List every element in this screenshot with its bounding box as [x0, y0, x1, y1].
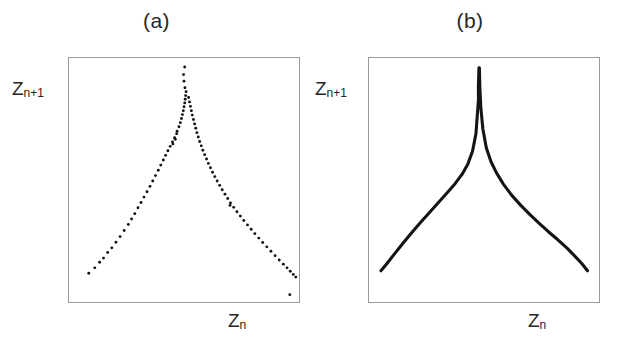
data-point [102, 257, 105, 260]
data-point [224, 193, 227, 196]
panel-a-y-axis-label-sub: n+1 [24, 86, 44, 100]
panel-b-x-axis-label-sub: n [540, 318, 547, 332]
data-point [164, 154, 167, 157]
data-point [182, 73, 185, 76]
data-point [182, 109, 185, 112]
data-point [194, 127, 197, 130]
data-point [197, 136, 200, 139]
data-point [98, 261, 101, 264]
data-point [261, 241, 264, 244]
data-point [192, 118, 195, 121]
data-point [110, 246, 113, 249]
data-point [151, 180, 154, 183]
data-point [146, 190, 149, 193]
panel-a-x-axis-label: Zn [228, 310, 246, 332]
data-point [221, 188, 224, 191]
data-point [185, 90, 188, 93]
data-point [253, 232, 256, 235]
data-point [183, 101, 186, 104]
data-point [93, 266, 96, 269]
panel-b-y-axis-label: Zn+1 [315, 78, 347, 100]
panel-a-y-axis-label: Zn+1 [12, 78, 44, 100]
data-point [137, 206, 140, 209]
data-point [123, 229, 126, 232]
panel-b-y-axis-label-sub: n+1 [327, 86, 347, 100]
data-point [218, 184, 221, 187]
data-point [286, 266, 289, 269]
panel-b-x-axis-label-base: Z [528, 310, 540, 331]
data-point [246, 223, 249, 226]
data-point [274, 254, 277, 257]
data-point [180, 117, 183, 120]
data-point [140, 201, 143, 204]
data-point [188, 100, 191, 103]
data-point [232, 206, 235, 209]
data-point [265, 245, 268, 248]
data-point [213, 175, 216, 178]
data-point [172, 142, 175, 145]
data-point [169, 145, 172, 148]
data-point [183, 86, 186, 89]
data-point [193, 122, 196, 125]
data-point [209, 166, 212, 169]
data-point [166, 149, 169, 152]
data-point [289, 270, 292, 273]
panel-b-y-axis-label-base: Z [315, 78, 327, 99]
cusp-curve-path [381, 68, 588, 271]
panel-a-title: (a) [0, 9, 313, 33]
data-point [175, 132, 178, 135]
data-point [181, 113, 184, 116]
data-point [183, 105, 186, 108]
data-point [184, 98, 187, 101]
data-point [201, 149, 204, 152]
data-point [157, 169, 160, 172]
data-point [130, 218, 133, 221]
data-point [205, 158, 208, 161]
data-point [106, 251, 109, 254]
panel-a-scatter-plot [69, 58, 299, 302]
data-point [226, 197, 229, 200]
data-point [143, 196, 146, 199]
data-point [184, 94, 187, 97]
data-point [119, 235, 122, 238]
data-point [87, 272, 90, 275]
panel-b-title: (b) [313, 9, 627, 33]
data-point [179, 121, 182, 124]
data-point [250, 228, 253, 231]
data-point [190, 109, 193, 112]
data-point [211, 171, 214, 174]
panel-b-plot-frame [368, 57, 600, 303]
data-point [159, 164, 162, 167]
data-point [278, 259, 281, 262]
data-point [183, 66, 186, 69]
data-point [203, 153, 206, 156]
data-point [127, 223, 130, 226]
data-point [154, 174, 157, 177]
data-point [216, 180, 219, 183]
data-point [114, 241, 117, 244]
figure-return-maps: (a) Zn+1 Zn (b) Zn+1 Zn [0, 0, 627, 345]
data-point [239, 215, 242, 218]
panel-a: (a) Zn+1 Zn [0, 0, 313, 345]
data-point [187, 96, 190, 99]
data-point [149, 185, 152, 188]
panel-b-cusp-curve-plot [369, 58, 599, 302]
panel-a-x-axis-label-sub: n [240, 318, 247, 332]
data-point [178, 125, 181, 128]
data-point [242, 219, 245, 222]
data-point [198, 140, 201, 143]
data-point [133, 212, 136, 215]
data-point [162, 159, 165, 162]
data-point [288, 293, 291, 296]
data-point [176, 130, 179, 133]
data-point [235, 210, 238, 213]
data-point [282, 263, 285, 266]
data-point [183, 80, 186, 83]
data-point [191, 114, 194, 117]
data-point [229, 201, 232, 204]
data-point [270, 250, 273, 253]
data-point [207, 162, 210, 165]
data-point [195, 131, 198, 134]
panel-a-x-axis-label-base: Z [228, 310, 240, 331]
panel-a-plot-frame [68, 57, 300, 303]
